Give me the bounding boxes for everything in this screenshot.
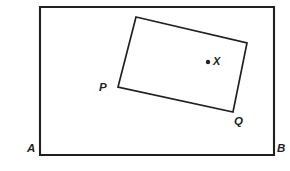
vertex-label-b: B (277, 143, 285, 155)
inner-tilted-rectangle (118, 17, 247, 112)
figure-canvas (0, 0, 290, 171)
geometry-figure: A B P Q X (0, 0, 290, 171)
vertex-label-q: Q (234, 116, 243, 128)
point-label-x: X (213, 56, 220, 67)
vertex-label-p: P (99, 82, 107, 94)
point-x-dot (206, 60, 210, 64)
vertex-label-a: A (27, 143, 35, 155)
